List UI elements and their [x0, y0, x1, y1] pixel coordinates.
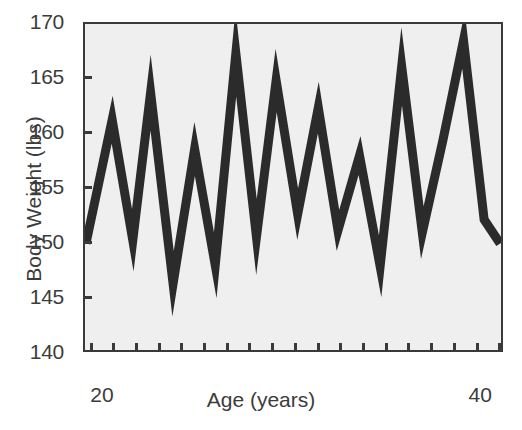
- x-tick-mark: [90, 343, 93, 352]
- plot-svg: [85, 24, 501, 350]
- x-tick-mark: [226, 343, 229, 352]
- y-axis-title: Body Weight (lbs): [22, 49, 46, 349]
- x-tick-mark: [271, 343, 274, 352]
- x-tick-mark: [158, 343, 161, 352]
- x-tick-mark: [317, 343, 320, 352]
- x-tick-mark: [112, 343, 115, 352]
- x-tick-mark: [135, 343, 138, 352]
- x-tick-mark: [203, 343, 206, 352]
- x-tick-mark: [180, 343, 183, 352]
- x-tick-mark: [498, 343, 501, 352]
- x-axis-title: Age (years): [0, 388, 522, 412]
- x-tick-label: 20: [90, 383, 113, 407]
- x-tick-mark: [430, 343, 433, 352]
- x-tick-mark: [407, 343, 410, 352]
- series-polyline: [86, 40, 500, 283]
- x-tick-mark: [385, 343, 388, 352]
- x-tick-mark: [294, 343, 297, 352]
- y-tick-mark: [83, 296, 92, 299]
- x-tick-label: 40: [469, 383, 492, 407]
- y-tick-mark: [83, 186, 92, 189]
- x-tick-mark: [339, 343, 342, 352]
- x-tick-mark: [476, 343, 479, 352]
- chart-figure: 140145150155160165170 Body Weight (lbs) …: [0, 0, 522, 430]
- y-tick-mark: [83, 131, 92, 134]
- x-tick-mark: [453, 343, 456, 352]
- plot-area: [83, 22, 503, 352]
- data-series-line: [86, 40, 500, 283]
- x-tick-mark: [248, 343, 251, 352]
- y-tick-mark: [83, 76, 92, 79]
- x-tick-mark: [362, 343, 365, 352]
- y-tick-mark: [83, 241, 92, 244]
- y-tick-label: 170: [30, 10, 64, 34]
